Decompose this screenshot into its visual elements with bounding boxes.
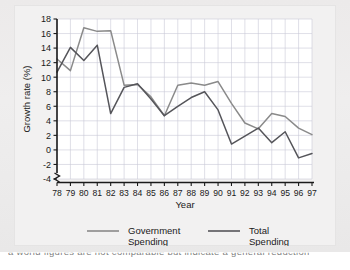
x-tick-label: 86 [160,188,170,198]
chart-plate: -4-2024681012141618 78798081828384858687… [14,5,336,246]
y-tick-label: 18 [41,14,51,24]
plot-area-background [57,19,312,179]
y-tick-label: 2 [46,131,51,141]
x-tick-label: 94 [267,188,277,198]
y-axis-tick-labels: -4-2024681012141618 [41,14,51,184]
y-tick-label: 16 [41,29,51,39]
legend-label-government-line1: Government [128,225,181,236]
y-tick-label: -2 [43,160,51,170]
x-tick-label: 81 [92,188,102,198]
page-text-strip: a world figures are not comparable but i… [0,252,350,270]
x-axis-title: Year [175,199,194,210]
x-tick-label: 91 [227,188,237,198]
y-tick-label: 8 [46,87,51,97]
x-tick-label: 79 [66,188,76,198]
x-tick-label: 97 [307,188,317,198]
x-axis-tick-labels: 7879808182838485868788899091929394959697 [52,188,317,198]
y-tick-label: 14 [41,43,51,53]
y-tick-label: -4 [43,174,51,184]
x-tick-label: 83 [119,188,129,198]
y-tick-label: 4 [46,116,51,126]
x-tick-label: 87 [173,188,183,198]
y-tick-label: 10 [41,73,51,83]
y-tick-label: 0 [46,145,51,155]
x-tick-label: 89 [200,188,210,198]
chart-legend: Government Spending Total Spending [87,225,289,246]
legend-label-government-line2: Spending [128,236,168,246]
clipped-page-text: a world figures are not comparable but i… [8,252,310,257]
x-tick-label: 88 [186,188,196,198]
x-tick-label: 93 [254,188,264,198]
legend-label-total-line1: Total [249,225,269,236]
x-tick-label: 84 [133,188,143,198]
y-tick-label: 12 [41,58,51,68]
x-tick-label: 80 [79,188,89,198]
x-tick-label: 82 [106,188,116,198]
x-tick-label: 95 [280,188,290,198]
y-tick-label: 6 [46,102,51,112]
x-tick-label: 90 [213,188,223,198]
figure-background: -4-2024681012141618 78798081828384858687… [0,0,350,252]
y-axis-title: Growth rate (%) [21,65,32,132]
line-chart: -4-2024681012141618 78798081828384858687… [14,5,336,246]
x-tick-label: 85 [146,188,156,198]
x-tick-label: 92 [240,188,250,198]
x-tick-label: 96 [294,188,304,198]
x-tick-label: 78 [52,188,62,198]
legend-label-total-line2: Spending [249,236,289,246]
